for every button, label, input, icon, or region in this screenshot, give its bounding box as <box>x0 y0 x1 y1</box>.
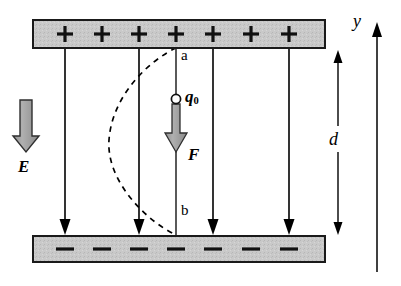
label-E: E <box>18 158 29 175</box>
label-y: y <box>353 12 361 30</box>
q-subscript: 0 <box>194 95 199 106</box>
q-symbol: q <box>185 87 194 106</box>
label-d: d <box>329 130 338 148</box>
test-charge <box>171 94 180 103</box>
positive-plate <box>33 20 325 48</box>
force-arrow <box>165 104 187 152</box>
capacitor-figure: E F q0 d y a b <box>0 0 401 286</box>
y-axis <box>372 22 382 272</box>
field-arrow <box>13 100 39 152</box>
field-line-1 <box>60 49 71 235</box>
field-line-5 <box>284 49 295 235</box>
dashed-trajectory <box>109 48 176 235</box>
label-point-b: b <box>181 203 189 218</box>
field-line-4 <box>208 49 219 235</box>
label-q0: q0 <box>185 88 199 105</box>
label-F: F <box>188 146 199 163</box>
label-point-a: a <box>181 48 188 63</box>
figure-canvas <box>0 0 401 286</box>
negative-plate <box>33 236 325 262</box>
